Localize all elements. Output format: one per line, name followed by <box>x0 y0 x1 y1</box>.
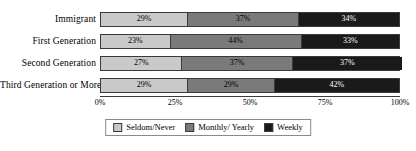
bar-segment-monthly-yearly: 37% <box>187 13 297 26</box>
category-label: Third Generation or More <box>0 80 100 91</box>
legend-item-seldom-never: Seldom/Never <box>113 123 175 132</box>
stacked-bar-chart: Immigrant 29% 37% 34% First Generation 2… <box>0 0 416 151</box>
chart-row: Immigrant 29% 37% 34% <box>0 8 416 30</box>
segment-value-label: 37% <box>340 59 355 67</box>
stacked-bar: 29% 29% 42% <box>100 78 400 93</box>
segment-value-label: 37% <box>236 15 251 23</box>
legend-swatch-icon <box>264 123 273 132</box>
plot-area: Immigrant 29% 37% 34% First Generation 2… <box>0 8 416 96</box>
category-label: First Generation <box>0 36 100 47</box>
x-axis-line <box>100 96 400 97</box>
legend-item-monthly-yearly: Monthly/ Yearly <box>185 123 254 132</box>
bar-segment-seldom-never: 29% <box>101 79 187 92</box>
segment-value-label: 27% <box>134 59 149 67</box>
chart-row: First Generation 23% 44% 33% <box>0 30 416 52</box>
segment-value-label: 42% <box>330 81 345 89</box>
stacked-bar: 23% 44% 33% <box>100 34 400 49</box>
stacked-bar: 27% 37% 37% <box>100 56 400 71</box>
legend-swatch-icon <box>185 123 194 132</box>
segment-value-label: 33% <box>343 37 358 45</box>
x-axis: 0% 25% 50% 75% 100% <box>100 96 400 110</box>
x-axis-tick-label: 75% <box>318 98 333 107</box>
segment-value-label: 29% <box>224 81 239 89</box>
segment-value-label: 44% <box>228 37 243 45</box>
bar-segment-weekly: 34% <box>298 13 399 26</box>
x-axis-tick-label: 0% <box>95 98 106 107</box>
legend-label: Weekly <box>277 123 303 132</box>
category-label: Second Generation <box>0 58 100 69</box>
bar-segment-weekly: 33% <box>301 35 399 48</box>
stacked-bar: 29% 37% 34% <box>100 12 400 27</box>
bar-segment-weekly: 42% <box>274 79 399 92</box>
segment-value-label: 23% <box>128 37 143 45</box>
bar-segment-seldom-never: 27% <box>101 57 181 70</box>
category-label: Immigrant <box>0 14 100 25</box>
legend-label: Monthly/ Yearly <box>198 123 254 132</box>
segment-value-label: 34% <box>341 15 356 23</box>
bar-segment-monthly-yearly: 37% <box>181 57 291 70</box>
x-axis-tick-label: 100% <box>391 98 410 107</box>
bar-segment-seldom-never: 29% <box>101 13 187 26</box>
segment-value-label: 37% <box>230 59 245 67</box>
legend-label: Seldom/Never <box>126 123 175 132</box>
bar-segment-seldom-never: 23% <box>101 35 170 48</box>
bar-segment-weekly: 37% <box>292 57 402 70</box>
legend-swatch-icon <box>113 123 122 132</box>
segment-value-label: 29% <box>137 15 152 23</box>
legend-item-weekly: Weekly <box>264 123 303 132</box>
chart-legend: Seldom/Never Monthly/ Yearly Weekly <box>105 119 311 136</box>
chart-row: Third Generation or More 29% 29% 42% <box>0 74 416 96</box>
chart-row: Second Generation 27% 37% 37% <box>0 52 416 74</box>
segment-value-label: 29% <box>137 81 152 89</box>
bar-segment-monthly-yearly: 29% <box>187 79 273 92</box>
x-axis-tick-label: 50% <box>243 98 258 107</box>
x-axis-tick-label: 25% <box>168 98 183 107</box>
bar-segment-monthly-yearly: 44% <box>170 35 301 48</box>
